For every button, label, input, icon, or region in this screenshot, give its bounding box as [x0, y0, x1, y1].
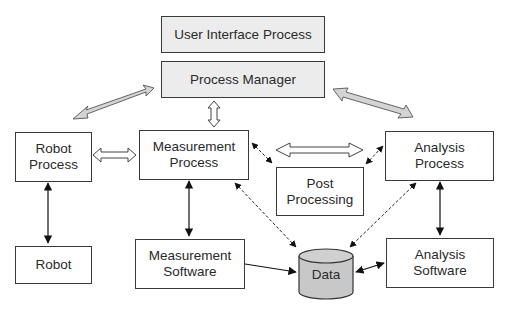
- post-processing-label: Post Processing: [287, 176, 354, 208]
- arrow-data-analysis-software: [356, 263, 384, 272]
- process-manager-box: Process Manager: [161, 61, 325, 98]
- hollow-double-arrow-pm-measurement: [208, 101, 220, 127]
- post-processing-box: Post Processing: [276, 167, 364, 216]
- measurement-software-box: Measurement Software: [135, 239, 245, 289]
- robot-process-label: Robot Process: [29, 141, 78, 173]
- gray-double-arrow-pm-analysis: [333, 88, 413, 118]
- analysis-process-label: Analysis Process: [414, 140, 464, 172]
- gray-double-arrow-pm-robot: [73, 85, 154, 119]
- measurement-process-box: Measurement Process: [139, 130, 249, 180]
- dashed-arrow-measurement-post: [252, 143, 272, 163]
- dashed-arrow-post-analysis: [366, 146, 383, 164]
- hollow-double-arrow-robot-measurement: [93, 148, 136, 162]
- arrow-measurement-software-data: [245, 264, 296, 272]
- analysis-software-box: Analysis Software: [386, 238, 494, 288]
- hollow-double-arrow-measurement-analysis: [276, 143, 363, 157]
- process-manager-label: Process Manager: [190, 72, 296, 88]
- analysis-process-box: Analysis Process: [385, 131, 494, 181]
- robot-process-box: Robot Process: [15, 132, 92, 182]
- user-interface-process-label: User Interface Process: [174, 27, 311, 43]
- user-interface-process-box: User Interface Process: [161, 16, 325, 53]
- analysis-software-label: Analysis Software: [413, 247, 466, 279]
- robot-box: Robot: [15, 246, 92, 284]
- data-label: Data: [298, 267, 354, 282]
- robot-label: Robot: [35, 257, 71, 273]
- measurement-process-label: Measurement Process: [153, 139, 236, 171]
- measurement-software-label: Measurement Software: [149, 248, 232, 280]
